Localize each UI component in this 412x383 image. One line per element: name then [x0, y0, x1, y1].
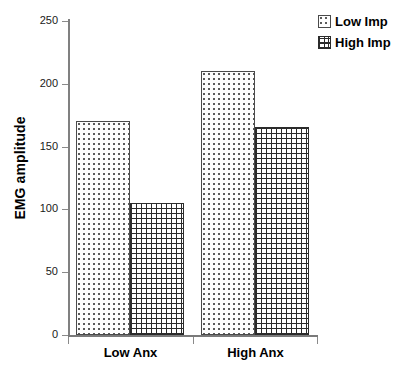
y-axis-tick-label-250: 250 [18, 15, 58, 26]
y-axis-tick-label-0: 0 [18, 329, 58, 340]
x-axis-label-low-anx: Low Anx [68, 345, 193, 360]
bar-low-anx-high-imp [130, 203, 184, 335]
plot-area [68, 21, 318, 335]
legend-label-high-imp: High Imp [335, 35, 391, 50]
legend-item-high-imp: High Imp [318, 33, 391, 52]
y-axis-title: EMG amplitude [12, 68, 28, 268]
bar-low-anx-low-imp [76, 121, 130, 335]
legend-item-low-imp: Low Imp [318, 12, 391, 31]
legend-label-low-imp: Low Imp [335, 14, 388, 29]
legend-swatch-grid-icon [318, 36, 331, 49]
x-axis-tick-end [317, 337, 318, 344]
legend-swatch-dots-icon [318, 15, 331, 28]
legend: Low Imp High Imp [318, 12, 391, 54]
x-axis-tick-mid [193, 337, 194, 344]
x-axis-label-high-anx: High Anx [193, 345, 318, 360]
bar-high-anx-low-imp [201, 71, 255, 335]
emg-amplitude-bar-chart: EMG amplitude 050100150200250 Low Anx Hi… [0, 0, 412, 383]
x-axis-tick-start [68, 337, 69, 344]
bar-high-anx-high-imp [255, 127, 309, 335]
